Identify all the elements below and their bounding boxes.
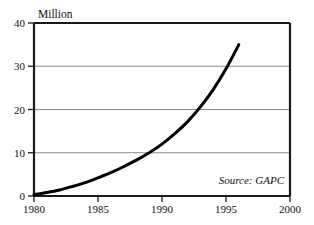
y-axis-label-30: 30 — [14, 60, 26, 72]
chart-figure: 0 10 20 30 40 1980 1985 1990 1995 2000 M… — [0, 0, 314, 225]
y-axis-tick-labels: 0 10 20 30 40 — [14, 17, 26, 202]
x-axis-label-2000: 2000 — [279, 203, 302, 215]
y-axis-label-10: 10 — [14, 147, 26, 159]
x-axis-label-1990: 1990 — [151, 203, 174, 215]
x-axis-label-1995: 1995 — [215, 203, 238, 215]
y-axis-label-40: 40 — [14, 17, 26, 29]
x-axis-label-1985: 1985 — [87, 203, 110, 215]
y-axis-label-20: 20 — [14, 104, 26, 116]
y-axis-label-0: 0 — [20, 190, 26, 202]
y-axis-unit-label: Million — [38, 8, 73, 20]
x-axis-label-1980: 1980 — [23, 203, 46, 215]
line-chart-canvas: 0 10 20 30 40 1980 1985 1990 1995 2000 M… — [0, 0, 314, 225]
source-annotation: Source: GAPC — [219, 174, 285, 186]
x-axis-tick-labels: 1980 1985 1990 1995 2000 — [23, 203, 302, 215]
